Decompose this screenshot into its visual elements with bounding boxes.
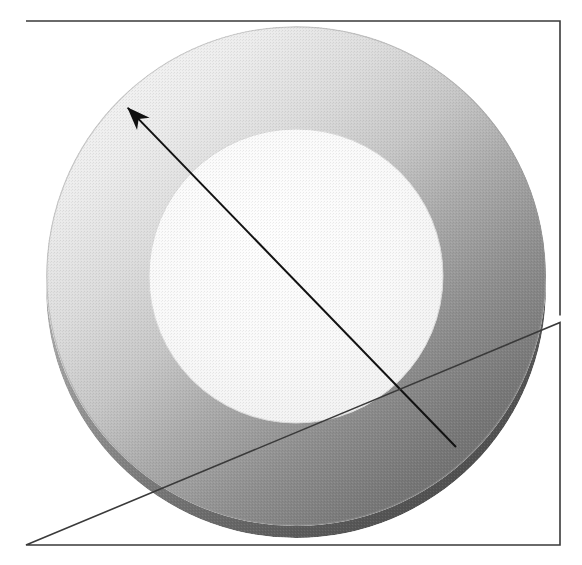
annulus-figure-svg [0, 0, 582, 565]
figure-container: scanned-line-art-illustration Shaded thr… [0, 0, 582, 565]
halftone-scan-grain [0, 0, 582, 565]
